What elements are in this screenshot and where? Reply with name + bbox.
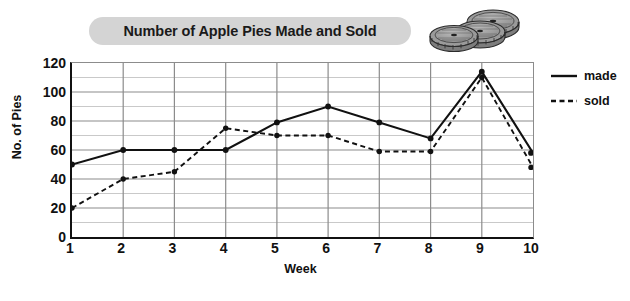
- legend-entry-made: made: [551, 63, 629, 88]
- x-tick-4: 4: [209, 241, 239, 255]
- plot-area: [70, 62, 534, 239]
- x-axis-tick-labels: 1 2 3 4 5 6 7 8 9 10: [70, 241, 531, 259]
- x-tick-1: 1: [55, 241, 85, 255]
- legend-solid-line-icon: [551, 70, 577, 82]
- x-tick-6: 6: [311, 241, 341, 255]
- x-tick-3: 3: [157, 241, 187, 255]
- x-tick-5: 5: [260, 241, 290, 255]
- y-tick-100: 100: [32, 85, 66, 99]
- chart-figure: Number of Apple Pies Made and Sold: [0, 0, 630, 301]
- y-tick-120: 120: [32, 56, 66, 70]
- data-series: [72, 63, 533, 237]
- y-tick-80: 80: [32, 114, 66, 128]
- x-tick-7: 7: [362, 241, 392, 255]
- legend-label-made: made: [584, 69, 617, 83]
- legend-entry-sold: sold: [551, 88, 629, 113]
- y-axis-title: No. of Pies: [10, 82, 24, 172]
- x-tick-9: 9: [465, 241, 495, 255]
- y-tick-20: 20: [32, 201, 66, 215]
- page-title: Number of Apple Pies Made and Sold: [89, 17, 411, 45]
- legend-label-sold: sold: [584, 94, 610, 108]
- apple-pies-icon: [424, 6, 522, 54]
- y-tick-40: 40: [32, 172, 66, 186]
- y-tick-60: 60: [32, 143, 66, 157]
- x-tick-2: 2: [106, 241, 136, 255]
- legend-dashed-line-icon: [551, 95, 577, 107]
- x-tick-8: 8: [414, 241, 444, 255]
- x-tick-10: 10: [516, 241, 546, 255]
- y-axis-tick-labels: 120 100 80 60 40 20 0: [28, 62, 66, 236]
- legend: made sold: [551, 63, 629, 113]
- series-made: [72, 69, 533, 168]
- x-axis-title: Week: [70, 262, 531, 276]
